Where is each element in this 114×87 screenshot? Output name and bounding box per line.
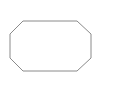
octagon-shape [10, 21, 91, 71]
diagram-canvas [0, 0, 114, 87]
